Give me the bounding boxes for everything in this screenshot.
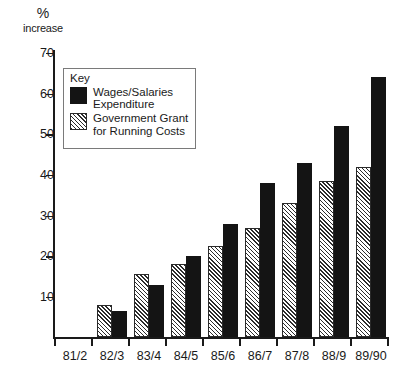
bar-government-grant — [282, 203, 297, 337]
bar-wages-salaries — [334, 126, 349, 337]
x-axis-category-label: 85/6 — [203, 350, 243, 363]
bar-wages-salaries — [297, 163, 312, 338]
bar-government-grant — [97, 305, 112, 338]
legend-title: Key — [70, 72, 195, 85]
legend-swatch-wages — [70, 87, 87, 104]
legend-swatch-grant — [70, 113, 87, 130]
legend-label-wages-line2: Expenditure — [93, 98, 173, 110]
x-axis-category-label: 86/7 — [240, 350, 280, 363]
bar-wages-salaries — [112, 311, 127, 337]
x-axis-category-label: 83/4 — [129, 350, 169, 363]
bar-government-grant — [208, 246, 223, 337]
x-axis-category-label: 89/90 — [351, 350, 391, 363]
bar-government-grant — [356, 167, 371, 338]
bar-wages-salaries — [186, 256, 201, 337]
x-axis-category-label: 88/9 — [314, 350, 354, 363]
bar-government-grant — [134, 274, 149, 337]
legend-label-wages-line1: Wages/Salaries — [93, 86, 173, 98]
bar-government-grant — [319, 181, 334, 338]
bar-chart: % increase 70605040302010 81/282/383/484… — [0, 0, 393, 382]
legend-entry-grant: Government Grant for Running Costs — [70, 112, 195, 137]
legend-label-grant: Government Grant for Running Costs — [93, 112, 188, 137]
legend-box: Key Wages/Salaries Expenditure Governmen… — [63, 68, 196, 149]
x-axis-category-label: 87/8 — [277, 350, 317, 363]
legend-label-wages: Wages/Salaries Expenditure — [93, 86, 173, 111]
bar-government-grant — [245, 228, 260, 338]
legend-entry-wages: Wages/Salaries Expenditure — [70, 86, 195, 111]
bars-layer — [0, 0, 393, 382]
x-axis-category-label: 82/3 — [92, 350, 132, 363]
bar-wages-salaries — [371, 77, 386, 337]
bar-government-grant — [171, 264, 186, 337]
x-axis-category-label: 81/2 — [55, 350, 95, 363]
bar-wages-salaries — [223, 224, 238, 338]
bar-wages-salaries — [260, 183, 275, 337]
legend-label-grant-line2: for Running Costs — [93, 125, 188, 137]
legend-label-grant-line1: Government Grant — [93, 112, 188, 124]
x-axis-category-label: 84/5 — [166, 350, 206, 363]
bar-wages-salaries — [149, 285, 164, 338]
